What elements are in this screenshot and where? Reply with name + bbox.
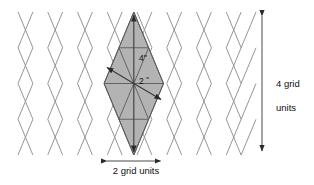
- label-vertical-diagonal: 4": [139, 53, 147, 63]
- vertical-dimension-label-line1: 4 grid: [276, 78, 300, 89]
- label-radius: 2 ˜: [139, 76, 149, 86]
- vertical-dimension-label: 4 grid units: [276, 66, 300, 114]
- geometry-figure: 4" 2 ˜ 4 grid units 2 grid units: [0, 0, 314, 185]
- diagram-canvas: 4" 2 ˜: [0, 0, 314, 185]
- vertical-dimension-label-line2: units: [276, 102, 296, 113]
- horizontal-dimension-label: 2 grid units: [76, 165, 196, 177]
